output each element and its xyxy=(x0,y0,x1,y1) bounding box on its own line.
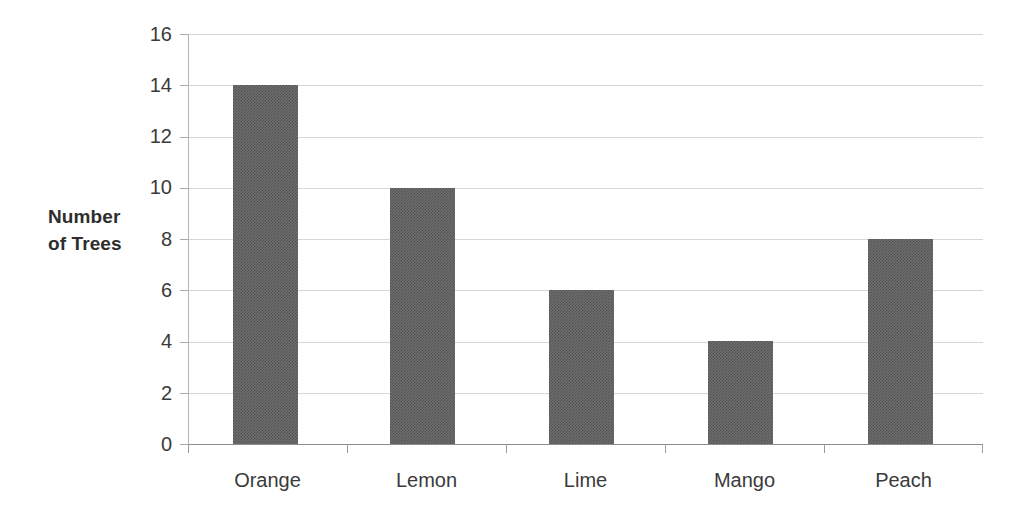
y-tick-label-8: 8 xyxy=(126,229,172,249)
gridline-12 xyxy=(188,137,983,138)
y-tick-label-14: 14 xyxy=(126,75,172,95)
y-tick-label-2: 2 xyxy=(126,383,172,403)
gridline-14 xyxy=(188,85,983,86)
x-label-lime: Lime xyxy=(506,468,665,492)
x-label-peach: Peach xyxy=(824,468,983,492)
bar-peach xyxy=(868,239,933,444)
x-tick-mark-5 xyxy=(982,444,983,453)
bar-mango xyxy=(708,341,773,444)
y-tick-label-6: 6 xyxy=(126,280,172,300)
y-axis-tick-labels: 16 14 12 10 8 6 4 2 0 xyxy=(126,34,172,444)
x-label-lemon: Lemon xyxy=(347,468,506,492)
bar-lime xyxy=(549,290,614,444)
y-tick-label-10: 10 xyxy=(126,177,172,197)
gridline-8 xyxy=(188,239,983,240)
bar-lemon xyxy=(390,188,455,444)
bar-chart: Number of Trees 16 14 12 10 8 6 4 2 0 xyxy=(0,0,1028,527)
gridline-10 xyxy=(188,188,983,189)
x-tick-mark-4 xyxy=(824,444,825,453)
x-label-orange: Orange xyxy=(188,468,347,492)
y-tick-label-16: 16 xyxy=(126,24,172,44)
x-tick-mark-0 xyxy=(188,444,189,453)
x-label-mango: Mango xyxy=(665,468,824,492)
y-tick-label-12: 12 xyxy=(126,126,172,146)
x-tick-mark-2 xyxy=(506,444,507,453)
plot-area xyxy=(188,34,983,444)
x-tick-mark-1 xyxy=(347,444,348,453)
y-axis-line xyxy=(188,34,189,445)
x-axis-line xyxy=(188,444,983,445)
x-tick-mark-3 xyxy=(665,444,666,453)
y-tick-label-0: 0 xyxy=(126,434,172,454)
bar-orange xyxy=(233,85,298,444)
y-tick-label-4: 4 xyxy=(126,331,172,351)
gridline-16 xyxy=(188,34,983,35)
